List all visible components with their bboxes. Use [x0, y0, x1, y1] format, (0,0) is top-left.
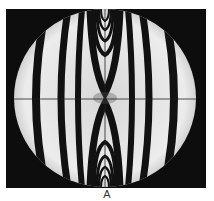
fringe-pattern-image [6, 9, 206, 188]
figure-caption: A [0, 187, 214, 201]
photoelastic-disc [6, 9, 206, 188]
